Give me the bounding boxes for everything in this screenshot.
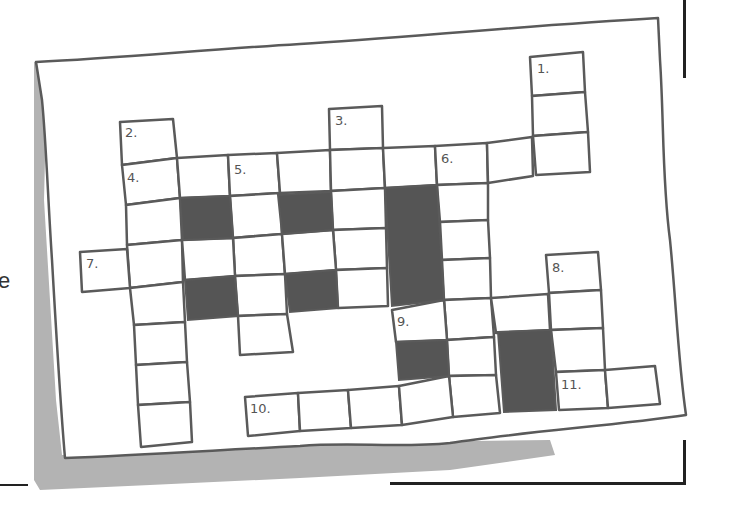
crossword-illustration: e [0,0,739,509]
cell-2-e [130,282,185,325]
black-cell [385,185,444,306]
cell-2-c [126,198,182,245]
cell-row4-8 [487,137,533,183]
black-cell [180,196,233,240]
black-cell [285,270,338,312]
cell-8-b [549,290,603,330]
cell-8-c [551,328,605,372]
cell-5-d [235,274,287,316]
crossword-drawing: 1. 2. 3. 4. 5. 6. 7. 8. 9. 10. 11. [0,0,739,509]
cell-3-d [333,228,387,270]
cell-row11-2 [605,366,660,408]
clue-number-2: 2. [125,125,137,140]
clue-number-1: 1. [537,61,549,76]
cell-row4-6 [383,146,437,188]
cell-row10-2 [298,390,351,431]
cell-6-e [444,298,494,340]
cell-6-g [449,375,500,417]
black-cell [396,340,449,380]
cell-row4-5 [330,148,385,191]
cell-5-c [233,234,285,276]
cell-row9-3 [491,294,550,333]
cell-row7-5 [282,230,336,274]
cell-1-b [532,92,588,136]
cell-5-b [230,193,282,238]
cell-row4-2 [177,155,230,198]
cell-6-d [442,258,491,300]
cell-6-b [437,183,488,222]
black-cell [185,276,238,320]
clue-number-9: 9. [397,314,409,329]
cell-2-f [134,322,187,365]
cell-1-c [533,132,590,175]
cell-2-d [127,240,183,288]
cell-3-c [331,188,386,230]
cell-row4-4 [277,150,331,193]
cell-5-e [238,314,293,355]
clue-number-7: 7. [86,256,98,271]
cell-3-e [336,268,388,308]
clue-number-10: 10. [250,401,271,416]
clue-number-8: 8. [552,260,564,275]
cell-2-h [138,402,192,447]
cell-2-g [136,362,190,405]
clue-number-11: 11. [561,377,582,392]
cell-6-c [440,220,490,260]
clue-number-4: 4. [127,170,139,185]
cell-row10-3 [348,386,402,428]
clue-number-6: 6. [441,151,453,166]
black-cell [278,192,333,234]
cell-row7-3 [182,238,235,280]
black-cell [498,330,556,412]
cell-row10-4 [399,376,453,425]
cell-6-f [447,337,496,376]
clue-number-5: 5. [234,162,246,177]
clue-number-3: 3. [335,113,347,128]
